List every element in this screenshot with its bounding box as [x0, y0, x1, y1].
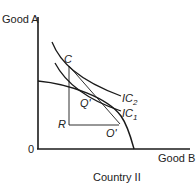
- point-label-O-prime: O': [106, 127, 118, 139]
- origin-label: 0: [28, 143, 34, 155]
- trade-diagram: Good A Good B 0 Country II C Q' R O' IC2…: [0, 0, 196, 183]
- ppf-curve: [38, 81, 134, 149]
- ic1-label: IC1: [122, 107, 137, 122]
- point-label-R: R: [58, 118, 66, 130]
- y-axis-label: Good A: [2, 13, 39, 25]
- ic2-label: IC2: [122, 92, 138, 107]
- ic2-curve: [52, 42, 121, 96]
- point-label-C: C: [64, 53, 72, 65]
- x-axis-label: Good B: [158, 152, 195, 164]
- chart-title: Country II: [93, 171, 141, 183]
- trade-line-C-O: [69, 66, 120, 124]
- point-label-Q-prime: Q': [80, 97, 92, 109]
